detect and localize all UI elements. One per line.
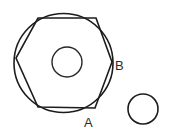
inner-small-circle [52, 47, 82, 77]
separate-small-circle [128, 94, 158, 124]
vertex-label-a: A [84, 115, 93, 130]
inscribed-hexagon [16, 18, 112, 108]
geometry-diagram: Hexagon inscribed in circle with labelle… [0, 0, 170, 137]
geometry-figure-canvas: Hexagon inscribed in circle with labelle… [0, 0, 170, 137]
vertex-label-b: B [115, 58, 124, 73]
